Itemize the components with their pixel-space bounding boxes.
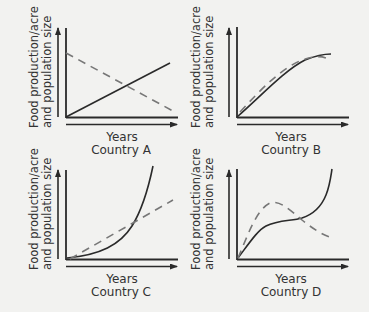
panel-country-c: Food production/acre and population size… <box>27 148 178 299</box>
y-axis-label-line1: Food production/acre <box>189 148 203 270</box>
dashed-curve <box>240 57 330 112</box>
dashed-curve <box>238 202 333 258</box>
x-axis-label: Years <box>105 272 138 286</box>
chart-figure: Food production/acre and population size… <box>0 0 369 312</box>
y-axis-label-line2: and population size <box>202 16 216 128</box>
x-axis-label: Years <box>274 272 307 286</box>
dashed-line <box>70 200 173 259</box>
panel-country-d: Food production/acre and population size… <box>189 148 349 299</box>
y-axis-label-line2: and population size <box>40 158 54 270</box>
dashed-line <box>66 53 173 111</box>
y-axis-label-line2: and population size <box>202 158 216 270</box>
solid-curve <box>67 166 153 258</box>
solid-curve <box>237 54 331 117</box>
x-axis-label: Years <box>274 130 307 144</box>
panel-title: Country B <box>261 143 321 157</box>
panel-country-b: Food production/acre and population size… <box>189 6 349 157</box>
panel-title: Country A <box>91 143 151 157</box>
y-axis-label-line1: Food production/acre <box>27 148 41 270</box>
y-axis-label-line1: Food production/acre <box>189 6 203 128</box>
x-axis-label: Years <box>105 130 138 144</box>
panel-title: Country D <box>261 285 322 299</box>
panel-country-a: Food production/acre and population size… <box>27 6 178 157</box>
solid-curve <box>238 169 332 258</box>
y-axis-label-line2: and population size <box>40 16 54 128</box>
y-axis-label-line1: Food production/acre <box>27 6 41 128</box>
solid-line <box>66 63 170 117</box>
panel-title: Country C <box>91 285 151 299</box>
